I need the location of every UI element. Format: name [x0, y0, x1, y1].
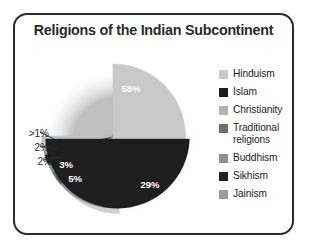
- legend-label-christianity: Christianity: [233, 104, 282, 116]
- legend-label-buddhism: Buddhism: [233, 152, 278, 164]
- legend-label-hinduism: Hinduism: [233, 68, 275, 80]
- pie-label-hinduism: 58%: [121, 83, 141, 94]
- pie-callout-sikhism: 2%: [13, 142, 49, 153]
- legend-swatch-christianity: [219, 106, 228, 115]
- legend-item-sikhism[interactable]: Sikhism: [219, 170, 291, 182]
- legend-item-hinduism[interactable]: Hinduism: [219, 68, 291, 80]
- legend-item-buddhism[interactable]: Buddhism: [219, 152, 291, 164]
- legend-swatch-buddhism: [219, 154, 228, 163]
- pie-svg: 58% 29% 5% 3%: [13, 44, 213, 234]
- legend-swatch-sikhism: [219, 172, 228, 181]
- chart-figure: Religions of the Indian Subcontinent: [0, 0, 309, 250]
- chart-title: Religions of the Indian Subcontinent: [13, 22, 294, 38]
- legend-item-christianity[interactable]: Christianity: [219, 104, 291, 116]
- pie-chart: 58% 29% 5% 3% >1% 2% 2%: [13, 44, 213, 234]
- pie-callout-buddhism: 2%: [16, 156, 52, 167]
- legend-swatch-hinduism: [219, 70, 228, 79]
- legend-label-sikhism: Sikhism: [233, 170, 268, 182]
- pie-callout-jainism: >1%: [13, 128, 49, 139]
- legend-label-traditional-religions: Traditional religions: [233, 122, 291, 145]
- legend-label-islam: Islam: [233, 86, 257, 98]
- legend-swatch-jainism: [219, 190, 228, 199]
- pie-label-christianity: 5%: [68, 173, 82, 184]
- legend-item-islam[interactable]: Islam: [219, 86, 291, 98]
- legend-swatch-traditional-religions: [219, 124, 228, 133]
- legend-swatch-islam: [219, 88, 228, 97]
- legend-item-jainism[interactable]: Jainism: [219, 188, 291, 200]
- legend-label-jainism: Jainism: [233, 188, 267, 200]
- pie-plot-area: 58% 29% 5% 3% >1% 2% 2%: [13, 44, 213, 234]
- legend-item-traditional-religions[interactable]: Traditional religions: [219, 122, 291, 145]
- chart-legend: Hinduism Islam Christianity Traditional …: [219, 68, 291, 206]
- pie-label-traditional-religions: 3%: [59, 159, 73, 170]
- pie-label-islam: 29%: [140, 179, 160, 190]
